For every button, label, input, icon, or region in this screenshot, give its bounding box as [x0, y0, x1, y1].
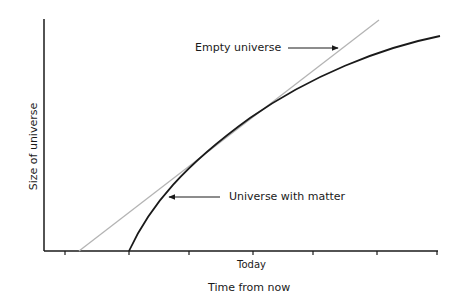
x-axis [44, 251, 438, 255]
y-axis-label: Size of universe [27, 92, 40, 202]
x-axis-label: Time from now [208, 281, 290, 294]
matter-universe-label: Universe with matter [229, 190, 345, 203]
empty-universe-line [79, 20, 379, 251]
today-tick-label: Today [237, 259, 266, 270]
empty-universe-label: Empty universe [195, 41, 281, 54]
matter-universe-curve [129, 36, 440, 251]
